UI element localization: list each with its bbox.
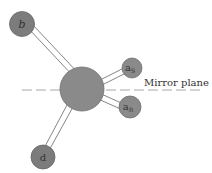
atom-aS-subscript: S (131, 67, 135, 74)
molecule-diagram: b d aS aR Mirror plane (0, 0, 212, 173)
atom-d: d (31, 145, 55, 169)
mirror-plane-label: Mirror plane (144, 77, 209, 88)
atom-b-label: b (18, 18, 25, 31)
atom-aR-subscript: R (129, 106, 134, 113)
atom-aS: aS (122, 58, 142, 78)
atom-center (60, 67, 104, 111)
atom-b: b (10, 12, 35, 37)
atom-aR: aR (119, 96, 141, 118)
atom-d-label: d (40, 152, 47, 163)
